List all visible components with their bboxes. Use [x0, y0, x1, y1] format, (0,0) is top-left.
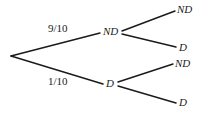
tree-edges-layer: [0, 0, 204, 117]
leaf-node-d-d: D: [179, 97, 187, 108]
edge-root-nd: [11, 33, 100, 56]
internal-node-d: D: [106, 78, 114, 89]
edge-d-d: [118, 86, 176, 103]
branch-probability-top: 9/10: [48, 23, 68, 34]
edge-nd-d: [122, 34, 176, 47]
branch-probability-bottom: 1/10: [48, 76, 68, 87]
edge-nd-nd: [122, 11, 175, 31]
leaf-node-d-nd: ND: [175, 58, 190, 69]
internal-node-nd: ND: [103, 26, 118, 37]
leaf-node-nd-d: D: [179, 42, 187, 53]
edges-group: [11, 11, 176, 103]
edge-d-nd: [118, 64, 173, 82]
leaf-node-nd-nd: ND: [177, 4, 192, 15]
probability-tree-diagram: 9/10 1/10 ND D ND D ND D: [0, 0, 204, 117]
